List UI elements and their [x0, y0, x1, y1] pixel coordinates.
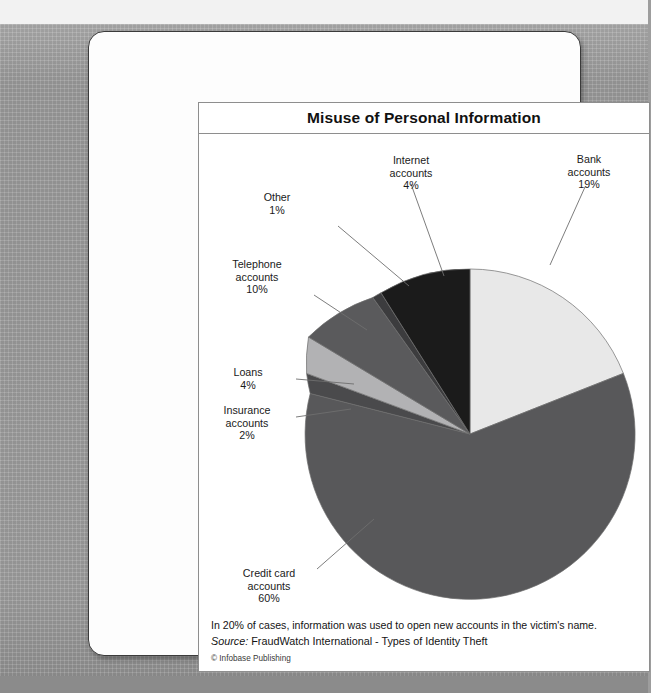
footer-copyright: © Infobase Publishing — [211, 654, 637, 663]
footer-source: Source: FraudWatch International - Types… — [211, 635, 637, 647]
pie-label-loans: Loans 4% — [207, 366, 289, 391]
pie-label-telephone-accounts: Telephone accounts 10% — [205, 258, 309, 296]
pie-label-credit-card-accounts: Credit card accounts 60% — [217, 567, 321, 605]
footer-source-word: Source: — [211, 635, 248, 647]
chart-card: Misuse of Personal Information — [88, 31, 581, 656]
pie-label-bank-accounts-line2: accounts — [539, 166, 639, 179]
pie-label-credit-card-accounts-line1: Credit card — [217, 567, 321, 580]
footer-source-text: FraudWatch International - Types of Iden… — [248, 635, 487, 647]
pie-label-bank-accounts-line1: Bank — [539, 153, 639, 166]
background-top-band — [0, 0, 648, 24]
pie-label-bank-accounts: Bank accounts 19% — [539, 153, 639, 191]
pie-label-insurance-accounts-line2: accounts — [203, 417, 291, 430]
leader-line-internet-accounts — [411, 184, 444, 276]
footer-note: In 20% of cases, information was used to… — [211, 619, 637, 631]
pie-label-internet-accounts-line1: Internet — [361, 154, 461, 167]
background-bottom-band — [0, 676, 648, 693]
pie-label-telephone-accounts-line2: accounts — [205, 271, 309, 284]
pie-label-credit-card-accounts-percent: 60% — [217, 592, 321, 605]
leader-line-bank-accounts — [550, 187, 585, 265]
pie-label-insurance-accounts-percent: 2% — [203, 429, 291, 442]
page-title: Misuse of Personal Information — [307, 109, 541, 127]
pie-label-loans-line1: Loans — [207, 366, 289, 379]
chart-title-bar: Misuse of Personal Information — [199, 103, 649, 134]
pie-label-other-line1: Other — [234, 191, 320, 204]
pie-label-credit-card-accounts-line2: accounts — [217, 580, 321, 593]
pie-label-internet-accounts: Internet accounts 4% — [361, 154, 461, 192]
pie-label-telephone-accounts-percent: 10% — [205, 283, 309, 296]
pie-label-internet-accounts-percent: 4% — [361, 179, 461, 192]
pie-label-loans-percent: 4% — [207, 379, 289, 392]
chart-panel: Misuse of Personal Information — [198, 102, 650, 672]
pie-label-bank-accounts-percent: 19% — [539, 178, 639, 191]
pie-label-insurance-accounts-line1: Insurance — [203, 404, 291, 417]
pie-label-insurance-accounts: Insurance accounts 2% — [203, 404, 291, 442]
chart-footer: In 20% of cases, information was used to… — [199, 619, 649, 671]
leader-line-other — [338, 226, 409, 286]
pie-label-telephone-accounts-line1: Telephone — [205, 258, 309, 271]
pie-label-internet-accounts-line2: accounts — [361, 167, 461, 180]
pie-chart-plot-area: Internet accounts 4% Other 1% Bank accou… — [199, 134, 649, 604]
pie-label-other: Other 1% — [234, 191, 320, 216]
pie-label-other-percent: 1% — [234, 204, 320, 217]
